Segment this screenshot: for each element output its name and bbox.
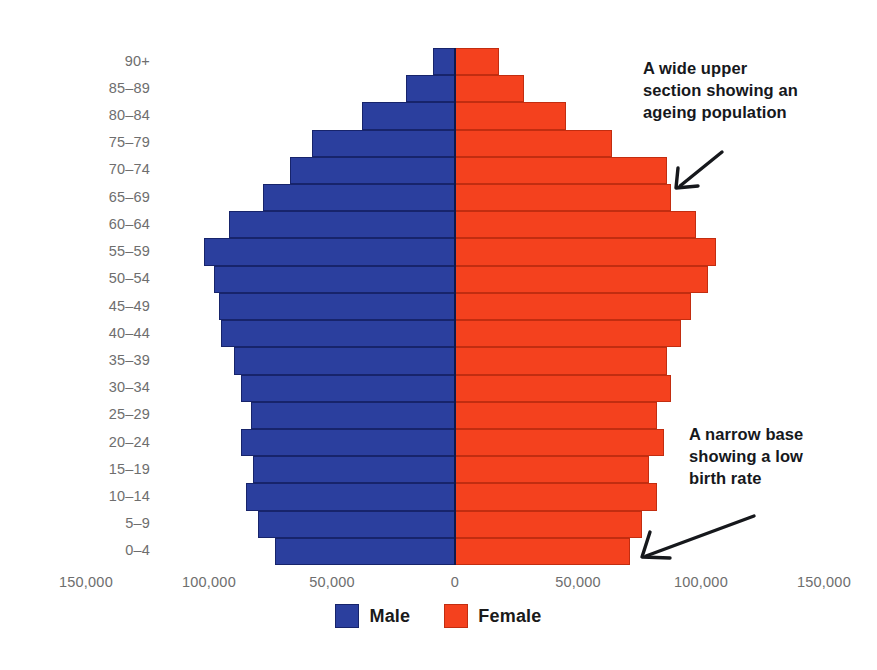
bar-female	[455, 102, 566, 129]
annotation-line: A narrow base	[689, 424, 869, 446]
bar-male	[433, 48, 455, 75]
legend-swatch-male-icon	[335, 604, 359, 628]
pyramid-row	[0, 130, 877, 157]
bar-male	[406, 75, 455, 102]
bar-female	[455, 48, 499, 75]
bar-female	[455, 184, 671, 211]
pyramid-row	[0, 511, 877, 538]
bar-female	[455, 538, 630, 565]
annotation-line: birth rate	[689, 468, 869, 490]
bar-male	[258, 511, 455, 538]
pyramid-row	[0, 538, 877, 565]
bar-female	[455, 320, 681, 347]
bar-male	[263, 184, 455, 211]
bar-male	[234, 347, 455, 374]
annotation-low-birth-rate: A narrow baseshowing a lowbirth rate	[689, 424, 869, 490]
pyramid-row	[0, 211, 877, 238]
bar-female	[455, 511, 642, 538]
pyramid-row	[0, 266, 877, 293]
bar-male	[221, 320, 455, 347]
population-pyramid-chart: 90+85–8980–8475–7970–7465–6960–6455–5950…	[0, 0, 877, 670]
legend-label: Male	[369, 606, 410, 627]
pyramid-row	[0, 157, 877, 184]
pyramid-row	[0, 347, 877, 374]
x-axis-tick-label: 150,000	[764, 574, 877, 590]
bar-female	[455, 293, 691, 320]
bar-female	[455, 456, 649, 483]
bar-female	[455, 266, 708, 293]
bar-male	[251, 402, 455, 429]
bar-female	[455, 75, 524, 102]
annotation-line: ageing population	[643, 102, 853, 124]
pyramid-row	[0, 320, 877, 347]
pyramid-row	[0, 184, 877, 211]
annotation-ageing-population: A wide uppersection showing anageing pop…	[643, 58, 853, 124]
legend-item-female[interactable]: Female	[444, 604, 541, 628]
pyramid-row	[0, 375, 877, 402]
annotation-line: A wide upper	[643, 58, 853, 80]
bar-female	[455, 375, 671, 402]
bar-male	[253, 456, 455, 483]
legend-item-male[interactable]: Male	[335, 604, 410, 628]
bar-female	[455, 347, 667, 374]
bar-male	[214, 266, 455, 293]
bar-female	[455, 402, 657, 429]
x-axis-ticks: 150,000100,00050,000050,000100,000150,00…	[0, 574, 877, 598]
bar-female	[455, 157, 667, 184]
bar-male	[241, 429, 455, 456]
pyramid-row	[0, 293, 877, 320]
zero-axis-line	[454, 48, 456, 565]
bar-male	[204, 238, 455, 265]
chart-legend: MaleFemale	[0, 604, 877, 628]
bar-female	[455, 429, 664, 456]
bar-male	[229, 211, 455, 238]
bar-male	[275, 538, 455, 565]
pyramid-row	[0, 238, 877, 265]
bar-male	[290, 157, 455, 184]
x-axis-tick-label: 100,000	[641, 574, 761, 590]
legend-label: Female	[478, 606, 541, 627]
bar-male	[241, 375, 455, 402]
x-axis-tick-label: 100,000	[149, 574, 269, 590]
x-axis-tick-label: 50,000	[272, 574, 392, 590]
x-axis-tick-label: 0	[395, 574, 515, 590]
bar-female	[455, 130, 612, 157]
x-axis-tick-label: 150,000	[26, 574, 146, 590]
annotation-line: section showing an	[643, 80, 853, 102]
bar-male	[246, 483, 455, 510]
bar-female	[455, 211, 696, 238]
x-axis-tick-label: 50,000	[518, 574, 638, 590]
bar-male	[362, 102, 455, 129]
legend-swatch-female-icon	[444, 604, 468, 628]
bar-female	[455, 483, 657, 510]
bar-female	[455, 238, 716, 265]
bar-male	[312, 130, 455, 157]
annotation-line: showing a low	[689, 446, 869, 468]
bar-male	[219, 293, 455, 320]
